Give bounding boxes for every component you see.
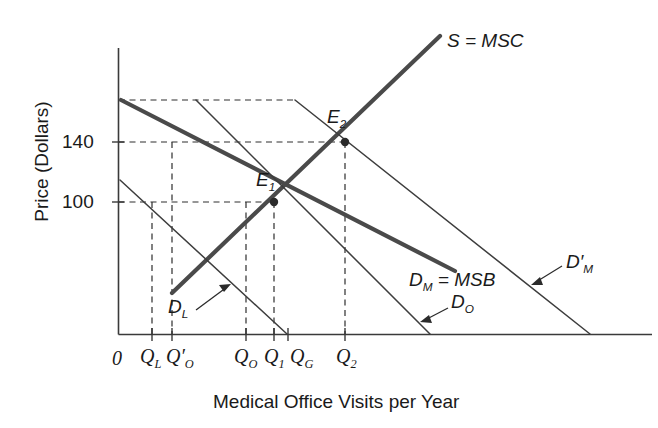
curve-label-dl-sub: L bbox=[182, 307, 189, 320]
x-tick-qg-sub: G bbox=[304, 357, 313, 371]
curve-label-do: DO bbox=[451, 292, 474, 315]
equilibrium-point-e1 bbox=[270, 198, 278, 206]
eq-e1-sub: 1 bbox=[269, 180, 276, 193]
curve-do bbox=[196, 100, 430, 334]
x-tick-label-q2: Q2 bbox=[336, 346, 357, 370]
equilibrium-label-e2: E2 bbox=[327, 107, 346, 130]
x-tick-qg-base: Q bbox=[290, 345, 304, 367]
curve-label-dm-base: D bbox=[409, 269, 423, 290]
arrowhead-do bbox=[420, 315, 432, 323]
x-tick-qo-sub: O bbox=[248, 357, 257, 371]
curve-label-dm-prime: D′M bbox=[566, 252, 593, 275]
curve-label-dl: DL bbox=[168, 297, 188, 320]
curve-dm-prime bbox=[295, 100, 590, 334]
x-tick-ql-base: Q bbox=[140, 345, 154, 367]
x-tick-label-qo: QO bbox=[234, 346, 257, 370]
x-tick-qo-prime-base: Q bbox=[166, 345, 180, 367]
curve-supply-msc bbox=[172, 36, 440, 293]
x-tick-label-origin: 0 bbox=[112, 348, 122, 368]
x-tick-label-qo-prime: Q′O bbox=[166, 346, 194, 370]
curve-label-dmp-sub: M bbox=[583, 262, 593, 275]
curve-label-supply: S = MSC bbox=[447, 31, 524, 50]
y-axis-title-wrapper: Price (Dollars) bbox=[32, 77, 51, 247]
curve-label-do-sub: O bbox=[465, 302, 474, 315]
x-tick-qo-base: Q bbox=[234, 345, 248, 367]
x-tick-label-qg: QG bbox=[290, 346, 313, 370]
eq-e1-base: E bbox=[256, 169, 269, 190]
curve-label-dmp-base: D bbox=[566, 251, 580, 272]
eq-e2-base: E bbox=[327, 106, 340, 127]
y-tick-label-100: 100 bbox=[62, 192, 94, 211]
arrow-dl bbox=[196, 287, 227, 310]
curve-dm-msb bbox=[121, 100, 455, 271]
x-tick-label-q1: Q1 bbox=[264, 346, 285, 370]
x-tick-q2-base: Q bbox=[336, 345, 350, 367]
x-tick-q2-sub: 2 bbox=[350, 357, 356, 371]
x-axis-title: Medical Office Visits per Year bbox=[213, 392, 459, 411]
curve-label-dl-base: D bbox=[168, 296, 182, 317]
x-tick-q1-sub: 1 bbox=[278, 357, 284, 371]
equilibrium-label-e1: E1 bbox=[256, 170, 275, 193]
curve-label-dm-msb: DM = MSB bbox=[409, 270, 495, 293]
x-tick-ql-sub: L bbox=[154, 357, 161, 371]
x-tick-q1-base: Q bbox=[264, 345, 278, 367]
x-tick-qo-prime-sub: O bbox=[185, 357, 194, 371]
y-tick-label-140: 140 bbox=[62, 132, 94, 151]
y-axis-title: Price (Dollars) bbox=[31, 101, 52, 221]
curve-dl bbox=[120, 180, 287, 334]
chart-figure: Price (Dollars) 140 100 0 QL Q′O QO Q1 Q… bbox=[0, 0, 658, 428]
chart-canvas bbox=[0, 0, 658, 428]
eq-e2-sub: 2 bbox=[340, 117, 347, 130]
curve-label-dm-sub: M bbox=[423, 280, 433, 293]
curve-label-dm-rest: = MSB bbox=[438, 269, 496, 290]
equilibrium-point-e2 bbox=[341, 138, 349, 146]
curve-label-do-base: D bbox=[451, 291, 465, 312]
x-tick-label-ql: QL bbox=[140, 346, 161, 370]
